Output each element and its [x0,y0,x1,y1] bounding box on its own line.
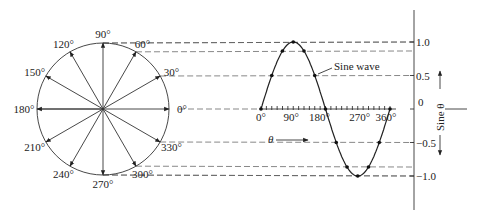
angle-label-90: 90° [95,28,110,40]
angle-label-330: 330° [161,141,182,153]
y-axis-label: Sine θ [434,103,446,131]
sine-data-point [367,165,371,169]
radius-arrow-150 [46,76,103,109]
angle-label-120: 120° [53,38,74,50]
angle-label-60: 60° [135,38,150,50]
radius-arrow-210 [46,109,103,142]
x-tick-label-270: 270° [349,111,370,123]
y-tick-label: 0.5 [416,70,430,82]
sine-data-point [281,49,285,53]
angle-label-30: 30° [164,66,179,78]
sine-data-point [259,107,263,111]
radius-arrow-30 [103,76,160,109]
projection-dash-line [136,166,414,167]
x-tick-label-90: 90° [284,111,299,123]
angle-label-300: 300° [132,168,153,180]
sine-data-point [270,74,274,78]
sine-wave-unit-circle-diagram: 0°30°60°90°120°150°180°210°240°270°300°3… [0,0,484,221]
y-tick-label: 0 [418,96,424,108]
sine-data-point [345,165,349,169]
curve-label: Sine wave [334,60,380,72]
radius-arrow-330 [103,109,160,142]
radius-arrow-60 [103,52,136,109]
sine-data-point [324,107,328,111]
x-tick-label-0: 0° [256,111,266,123]
projection-dash-line [136,51,414,52]
y-tick-label: −0.5 [416,137,436,149]
sine-data-point [388,107,392,111]
radius-arrow-240 [70,109,103,166]
y-tick-label: 1.0 [416,36,430,48]
y-tick-label: −1.0 [416,170,436,182]
radius-arrow-120 [70,52,103,109]
sine-data-point [302,49,306,53]
projection-dash-line [160,76,414,77]
angle-label-210: 210° [24,141,45,153]
angle-label-270: 270° [93,178,114,190]
sine-data-point [291,40,295,44]
angle-label-180: 180° [14,103,35,115]
angle-label-240: 240° [53,168,74,180]
sine-data-point [334,141,338,145]
sine-data-point [377,141,381,145]
theta-label: θ [268,133,274,145]
sine-data-point [356,174,360,178]
projection-dash-line [160,142,414,143]
radius-arrow-300 [103,109,136,166]
sine-data-point [313,74,317,78]
angle-label-0: 0° [177,103,187,115]
curve-label-leader [318,68,332,74]
angle-label-150: 150° [24,66,45,78]
